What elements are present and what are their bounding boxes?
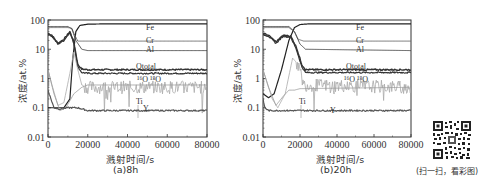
- series-label-al: Al: [146, 45, 155, 54]
- x-tick-label: 80000: [195, 139, 220, 150]
- panel-caption-b: (b)20h: [320, 164, 352, 175]
- figure-canvas: 0.010.1110100020000400006000080000FeCrAl…: [0, 0, 502, 184]
- x-tick-label: 20000: [75, 139, 100, 150]
- y-tick-label: 1: [40, 73, 45, 84]
- series-line-ti: [263, 70, 411, 106]
- series-label-y: Y: [143, 104, 149, 113]
- y-axis-label-b: 浓度/at.%: [230, 51, 244, 111]
- series-label-cr: Cr: [146, 36, 154, 45]
- series-line-18o: [263, 58, 411, 110]
- x-tick-label: 60000: [155, 139, 180, 150]
- x-tick-label: 40000: [115, 139, 140, 150]
- series-label-y: Y: [330, 106, 336, 115]
- series-label-16o: ¹⁶O: [137, 75, 148, 84]
- series-line-al: [263, 26, 411, 50]
- y-tick-label: 0.01: [243, 132, 261, 143]
- y-tick-label: 1: [255, 73, 260, 84]
- series-label-al: Al: [356, 45, 365, 54]
- y-tick-label: 10: [250, 44, 260, 55]
- series-label-ototal: Ototal: [136, 62, 157, 71]
- chart-panel-b: 0.010.1110100020000400006000080000FeCrAl…: [243, 15, 424, 151]
- x-tick-label: 0: [261, 139, 266, 150]
- series-label-18o: ¹⁸O: [150, 75, 161, 84]
- series-label-18o: ¹⁸O: [357, 75, 368, 84]
- series-label-fe: Fe: [356, 23, 364, 32]
- x-tick-label: 20000: [288, 139, 313, 150]
- y-tick-label: 100: [245, 15, 260, 26]
- series-label-cr: Cr: [356, 36, 364, 45]
- x-tick-label: 80000: [399, 139, 424, 150]
- y-tick-label: 100: [30, 15, 45, 26]
- qr-code-icon: [432, 120, 472, 160]
- series-line-y: [263, 98, 411, 111]
- series-line-ototal: [263, 33, 411, 70]
- qr-code[interactable]: [432, 120, 472, 160]
- y-tick-label: 10: [35, 44, 45, 55]
- x-tick-label: 40000: [325, 139, 350, 150]
- qr-caption: (扫一扫，看彩图): [416, 165, 478, 176]
- chart-panel-a: 0.010.1110100020000400006000080000FeCrAl…: [28, 15, 220, 151]
- series-label-fe: Fe: [146, 23, 154, 32]
- series-line-cr: [263, 28, 411, 42]
- y-tick-label: 0.1: [248, 102, 261, 113]
- series-line-18o: [48, 52, 207, 113]
- series-label-ototal: Ototal: [346, 62, 367, 71]
- series-label-ti: Ti: [299, 97, 307, 106]
- y-tick-label: 0.01: [28, 132, 46, 143]
- x-tick-label: 0: [46, 139, 51, 150]
- panel-caption-a: (a)8h: [113, 164, 138, 175]
- series-line-y: [48, 90, 207, 111]
- y-axis-label-a: 浓度/at.%: [15, 51, 29, 111]
- y-tick-label: 0.1: [33, 102, 46, 113]
- plot-frame: [263, 20, 411, 137]
- series-label-16o: ¹⁶O: [344, 75, 355, 84]
- x-tick-label: 60000: [362, 139, 387, 150]
